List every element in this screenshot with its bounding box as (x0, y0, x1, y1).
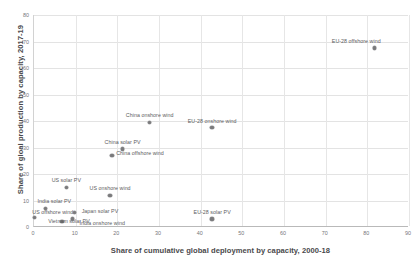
data-point (210, 217, 213, 220)
data-point-label: US solar PV (52, 177, 81, 183)
x-tick-label: 50 (229, 230, 253, 236)
x-tick-label: 90 (396, 230, 416, 236)
data-point-label: India onshore wind (80, 220, 125, 226)
data-point-label: US offshore wind (32, 209, 73, 215)
data-point-label: EU-28 solar PV (194, 209, 231, 215)
data-layer: EU-28 offshore windChina onshore windEU-… (33, 15, 408, 227)
x-axis-title: Share of cumulative global deployment by… (33, 246, 408, 255)
data-point (148, 121, 151, 124)
data-point-label: China onshore wind (126, 112, 174, 118)
x-tick-label: 30 (146, 230, 170, 236)
data-point-label: EU-28 offshore wind (332, 38, 381, 44)
x-tick-label: 80 (354, 230, 378, 236)
x-tick-label: 70 (313, 230, 337, 236)
x-tick-label: 40 (188, 230, 212, 236)
data-point (108, 194, 111, 197)
data-point-label: China solar PV (105, 139, 141, 145)
data-point-label: EU-28 onshore wind (188, 118, 237, 124)
y-axis-title: Share of gloal production by capacity, 2… (16, 10, 25, 210)
data-point-label: China offshore wind (116, 150, 164, 156)
x-tick-label: 10 (63, 230, 87, 236)
data-point (33, 216, 36, 219)
x-tick-label: 0 (21, 230, 45, 236)
data-point-label: India solar PV (38, 198, 72, 204)
data-point (210, 126, 213, 129)
x-tick-label: 20 (104, 230, 128, 236)
data-point-label: Japan solar PV (82, 208, 119, 214)
data-point (73, 211, 76, 214)
data-point (110, 154, 113, 157)
x-tick-label: 60 (271, 230, 295, 236)
data-point (71, 217, 74, 220)
data-point (373, 46, 376, 49)
data-point-label: US onshore wind (90, 185, 131, 191)
data-point (65, 186, 68, 189)
